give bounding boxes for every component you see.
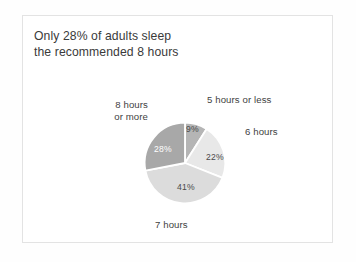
slice-value-7-hours: 41% <box>177 182 195 192</box>
slice-value-5-hours-or-less: 9% <box>186 124 199 134</box>
category-label-8-hours-or-more: 8 hours or more <box>92 99 148 123</box>
pie-chart-svg <box>143 121 227 205</box>
category-label-7-hours: 7 hours <box>155 219 188 231</box>
category-label-5-hours-or-less: 5 hours or less <box>207 94 271 106</box>
slice-value-6-hours: 22% <box>206 152 224 162</box>
chart-title: Only 28% of adults sleep the recommended… <box>34 29 284 60</box>
slice-value-8-hours-or-more: 28% <box>154 144 172 154</box>
pie-chart <box>143 121 227 205</box>
figure-root: Only 28% of adults sleep the recommended… <box>0 0 356 262</box>
category-label-6-hours: 6 hours <box>245 126 278 138</box>
